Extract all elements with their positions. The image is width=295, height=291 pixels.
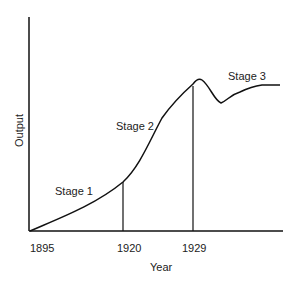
output-curve	[30, 79, 280, 231]
tick-1929: 1929	[182, 242, 206, 254]
stages-chart: Output Year 1895 1920 1929 Stage 1 Stage…	[0, 0, 295, 291]
stage-1-label: Stage 1	[55, 185, 93, 197]
stage-2-label: Stage 2	[116, 120, 154, 132]
x-axis-label: Year	[150, 261, 173, 273]
tick-1920: 1920	[117, 242, 141, 254]
stage-3-label: Stage 3	[228, 70, 266, 82]
tick-1895: 1895	[30, 242, 54, 254]
y-axis-label: Output	[13, 114, 25, 147]
